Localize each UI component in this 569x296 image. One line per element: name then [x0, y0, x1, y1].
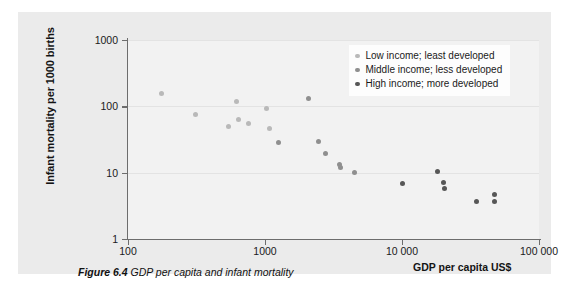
data-point — [159, 91, 164, 96]
x-tick-label: 1000 — [225, 246, 305, 257]
y-tick-label: 1000 — [95, 35, 118, 46]
figure-panel: 1101001000 100100010 000100 000 Infant m… — [18, 12, 551, 274]
y-axis-title: Infant mortality per 1000 births — [44, 16, 56, 196]
data-point — [193, 112, 198, 117]
y-tick-label-wrap: 10 — [48, 168, 118, 180]
data-point — [264, 106, 269, 111]
y-tick-mark — [122, 239, 127, 240]
y-tick-label-wrap: 100 — [48, 101, 118, 113]
data-point — [441, 180, 446, 185]
data-point — [226, 124, 231, 129]
legend: Low income; least developedMiddle income… — [349, 45, 510, 96]
figure-container: 1101001000 100100010 000100 000 Infant m… — [0, 0, 569, 296]
data-point — [435, 169, 440, 174]
legend-marker-icon — [355, 68, 360, 73]
data-point — [338, 165, 343, 170]
x-tick-label: 10 000 — [362, 246, 442, 257]
legend-label: High income; more developed — [366, 79, 499, 89]
x-tick-label: 100 — [88, 246, 168, 257]
data-point — [474, 199, 479, 204]
figure-caption: Figure 6.4 GDP per capita and infant mor… — [78, 266, 294, 278]
y-tick-label: 10 — [106, 168, 118, 179]
data-point — [236, 117, 241, 122]
legend-label: Middle income; less developed — [366, 65, 503, 75]
gridline — [128, 173, 539, 174]
y-tick-label: 100 — [100, 101, 118, 112]
data-point — [492, 192, 497, 197]
data-point — [267, 126, 272, 131]
data-point — [234, 99, 239, 104]
legend-marker-icon — [355, 82, 360, 87]
legend-marker-icon — [355, 54, 360, 59]
data-point — [400, 181, 405, 186]
y-tick-mark — [122, 106, 127, 107]
gridline — [128, 106, 539, 107]
x-axis-line — [127, 239, 541, 240]
data-point — [316, 139, 321, 144]
data-point — [276, 140, 281, 145]
y-tick-label-wrap: 1000 — [48, 35, 118, 47]
legend-item: Low income; least developed — [355, 49, 502, 63]
gridline — [128, 40, 539, 41]
caption-label: Figure 6.4 — [78, 266, 128, 278]
y-tick-mark — [122, 173, 127, 174]
data-point — [492, 199, 497, 204]
legend-item: Middle income; less developed — [355, 63, 502, 77]
y-tick-label-wrap: 1 — [48, 234, 118, 246]
legend-item: High income; more developed — [355, 77, 502, 91]
data-point — [352, 170, 357, 175]
x-axis-title: GDP per capita US$ — [413, 261, 511, 273]
caption-text: GDP per capita and infant mortality — [131, 266, 294, 278]
data-point — [246, 121, 251, 126]
y-axis-line — [127, 38, 128, 240]
y-tick-label: 1 — [112, 234, 118, 245]
data-point — [442, 186, 447, 191]
legend-label: Low income; least developed — [366, 51, 495, 61]
data-point — [323, 151, 328, 156]
y-tick-mark — [122, 40, 127, 41]
x-tick-label: 100 000 — [499, 246, 569, 257]
data-point — [306, 96, 311, 101]
